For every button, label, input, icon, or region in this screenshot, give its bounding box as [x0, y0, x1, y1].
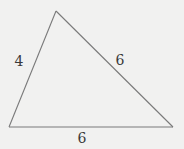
side-label-bottom: 6 [78, 131, 87, 145]
side-label-right: 6 [116, 53, 125, 67]
triangle-shape [0, 0, 184, 149]
side-label-left: 4 [15, 54, 24, 68]
triangle-side-left [9, 11, 56, 127]
triangle-side-right [56, 11, 173, 127]
triangle-diagram: 4 6 6 [0, 0, 184, 149]
